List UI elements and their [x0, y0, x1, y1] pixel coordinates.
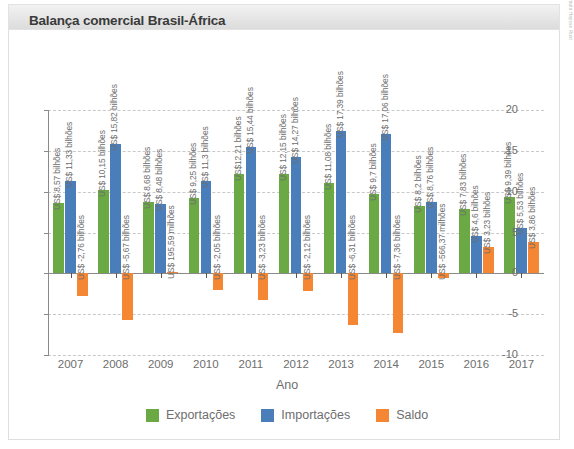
x-tick-label: 2012 [274, 358, 318, 370]
x-tick-label: 2008 [94, 358, 138, 370]
bar-exportações-2009[interactable] [143, 202, 154, 273]
bar-value-label: US$ 11,33 bilhões [64, 122, 74, 188]
bar-value-label: US$ 3,86 bilhões [527, 187, 537, 249]
bar-exportações-2007[interactable] [53, 203, 64, 273]
bar-value-label: US$ 4,6 bilhões [470, 185, 480, 243]
bar-exportações-2016[interactable] [459, 209, 470, 273]
bar-group: US$ 10,15 bilhõesUS$ 15,82 bilhõesUS$ -5… [98, 110, 133, 355]
bar-importações-2010[interactable] [201, 181, 212, 273]
y-tick-label: 0 [488, 266, 518, 278]
y-tick-label: -5 [488, 307, 518, 319]
bar-value-label: US$ 9,25 bilhões [188, 143, 198, 205]
x-tick-mark [116, 273, 117, 278]
bar-exportações-2013[interactable] [324, 183, 335, 273]
bar-exportações-2012[interactable] [279, 174, 290, 273]
x-tick-label: 2013 [319, 358, 363, 370]
bar-value-label: US$ 11,08 bilhões [323, 124, 333, 190]
x-tick-label: 2007 [49, 358, 93, 370]
credit-text: Paula Haysse Rust [568, 0, 573, 40]
bar-group: US$12,21 bilhõesUS$ 15,44 bilhõesUS$ -3,… [234, 110, 269, 355]
bar-group: US$ 8,57 bilhõesUS$ 11,33 bilhõesUS$ -2,… [53, 110, 88, 355]
y-tick-label: 5 [488, 226, 518, 238]
bar-exportações-2014[interactable] [369, 194, 380, 273]
bar-group: US$ 8,68 bilhõesUS$ 8,48 bilhõesUS$ 195,… [143, 110, 178, 355]
y-tick-label: 20 [488, 103, 518, 115]
x-tick-label: 2017 [499, 358, 543, 370]
bar-group: US$ 9,7 bilhõesUS$ 17,06 bilhõesUS$ -7,3… [369, 110, 404, 355]
bar-importações-2011[interactable] [246, 147, 257, 273]
legend-item-exportacoes[interactable]: Exportações [146, 408, 235, 422]
bar-group: US$ 11,08 bilhõesUS$ 17,39 bilhõesUS$ -6… [324, 110, 359, 355]
bar-importações-2012[interactable] [291, 157, 302, 274]
bar-exportações-2008[interactable] [98, 190, 109, 273]
bar-value-label: US$ 9,7 bilhões [368, 143, 378, 201]
gridline [48, 355, 544, 356]
bar-value-label: US$ 8,57 bilhões [52, 148, 62, 210]
x-tick-label: 2010 [184, 358, 228, 370]
x-tick-mark [386, 273, 387, 278]
legend: Exportações Importações Saldo [0, 408, 574, 422]
bar-value-label: US$ -2,05 bilhões [212, 215, 222, 280]
x-tick-mark [161, 273, 162, 278]
legend-label: Saldo [396, 408, 428, 422]
legend-swatch-icon [261, 409, 274, 422]
y-tick-label: 15 [488, 144, 518, 156]
x-tick-label: 2011 [229, 358, 273, 370]
bar-saldo-2008[interactable] [122, 273, 133, 319]
x-tick-mark [206, 273, 207, 278]
bar-group: US$ 8,2 bilhõesUS$ 8,76 bilhõesUS$ -566,… [414, 110, 449, 355]
bar-importações-2008[interactable] [110, 144, 121, 273]
bar-importações-2009[interactable] [155, 204, 166, 273]
plot-area: US$ 8,57 bilhõesUS$ 11,33 bilhõesUS$ -2,… [48, 110, 544, 355]
y-tick-mark [44, 110, 49, 111]
legend-swatch-icon [146, 409, 159, 422]
x-tick-label: 2016 [454, 358, 498, 370]
bar-exportações-2011[interactable] [234, 174, 245, 274]
bar-exportações-2015[interactable] [414, 206, 425, 273]
bar-value-label: US$ -7,36 bilhões [392, 215, 402, 280]
x-tick-mark [521, 273, 522, 278]
bar-value-label: US$ 15,82 bilhões [109, 84, 119, 151]
bar-value-label: US$ -3,23 bilhões [257, 215, 267, 280]
bar-importações-2007[interactable] [65, 181, 76, 274]
bar-value-label: US$ 3,23 bilhões [482, 192, 492, 254]
legend-label: Exportações [166, 408, 235, 422]
bar-value-label: US$ 14,27 bilhões [290, 97, 300, 164]
bar-value-label: US$ 17,39 bilhões [335, 72, 345, 139]
bar-exportações-2010[interactable] [189, 198, 200, 274]
bar-value-label: US$ 8,2 bilhões [413, 156, 423, 214]
x-tick-mark [71, 273, 72, 278]
bar-value-label: US$ 15,44 bilhões [245, 87, 255, 154]
x-tick-mark [251, 273, 252, 278]
bar-value-label: US$ 17,06 bilhões [380, 74, 390, 141]
bar-value-label: US$12,21 bilhões [233, 116, 243, 181]
chart-figure: Balança comercial Brasil-África Paula Ha… [0, 0, 574, 449]
legend-swatch-icon [376, 409, 389, 422]
title-band: Balança comercial Brasil-África [8, 4, 560, 30]
legend-item-importacoes[interactable]: Importações [261, 408, 350, 422]
x-tick-label: 2014 [364, 358, 408, 370]
bar-group: US$ 12,15 bilhõesUS$ 14,27 bilhõesUS$ -2… [279, 110, 314, 355]
bar-value-label: US$ 12,15 bilhões [278, 114, 288, 181]
legend-item-saldo[interactable]: Saldo [376, 408, 428, 422]
page-title: Balança comercial Brasil-África [29, 13, 225, 28]
bar-value-label: US$ -566,37 milhões [437, 204, 447, 280]
y-tick-label: 10 [488, 185, 518, 197]
bar-value-label: US$ 11,3 bilhões [200, 126, 210, 188]
y-tick-mark [44, 355, 49, 356]
y-tick-mark [44, 151, 49, 152]
bar-saldo-2013[interactable] [348, 273, 359, 325]
bar-value-label: US$ 7,83 bilhões [458, 154, 468, 216]
x-tick-label: 2009 [139, 358, 183, 370]
y-tick-mark [44, 233, 49, 234]
bar-importações-2014[interactable] [381, 134, 392, 273]
bar-importações-2013[interactable] [336, 131, 347, 273]
bar-saldo-2014[interactable] [393, 273, 404, 333]
bar-value-label: US$ -5,67 bilhões [121, 215, 131, 280]
x-tick-mark [341, 273, 342, 278]
y-tick-mark [44, 192, 49, 193]
x-tick-mark [296, 273, 297, 278]
bar-value-label: US$ -2,12 bilhões [302, 215, 312, 280]
bar-value-label: US$ 8,76 bilhões [425, 147, 435, 209]
bar-importações-2015[interactable] [426, 202, 437, 274]
